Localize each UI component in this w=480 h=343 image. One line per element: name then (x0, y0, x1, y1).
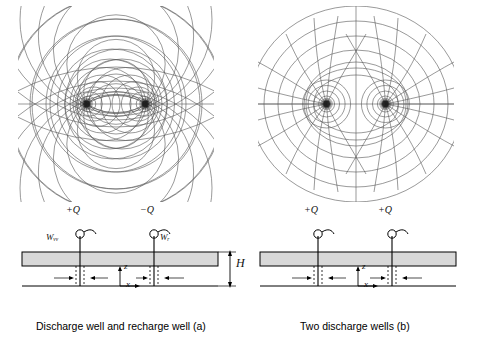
section-a-axis-z: z (124, 261, 128, 271)
section-b-well-right-charge: +Q (378, 204, 392, 215)
section-b-axis-x: x (364, 279, 368, 289)
cross-section-b-svg (252, 216, 464, 312)
flow-net-panel-b (258, 6, 454, 202)
section-b-axis-z: z (362, 261, 366, 271)
flow-net-b-svg (258, 6, 454, 202)
section-a-axis-x: x (126, 279, 130, 289)
section-a-well-left-name: Wᵥᵥ (46, 232, 59, 242)
section-a-well-right-charge: −Q (140, 204, 154, 215)
cross-section-panel-b: +Q +Q z x (252, 216, 464, 312)
caption-panel-b: Two discharge wells (b) (300, 320, 410, 332)
caption-panel-a: Discharge well and recharge well (a) (36, 320, 206, 332)
section-a-well-left-charge: +Q (66, 204, 80, 215)
flow-net-panel-a (18, 6, 214, 202)
streamlines-a (18, 6, 214, 202)
section-a-well-right-name: Wᵣ (160, 232, 170, 242)
cross-section-panel-a: +Q −Q Wᵥᵥ Wᵣ z x H (8, 216, 240, 312)
streamlines-b (258, 6, 454, 202)
section-b-well-left-charge: +Q (304, 204, 318, 215)
figure-root: +Q −Q Wᵥᵥ Wᵣ z x H (0, 0, 480, 343)
flow-net-a-svg (18, 6, 214, 202)
section-a-thickness-label: H (236, 256, 245, 271)
